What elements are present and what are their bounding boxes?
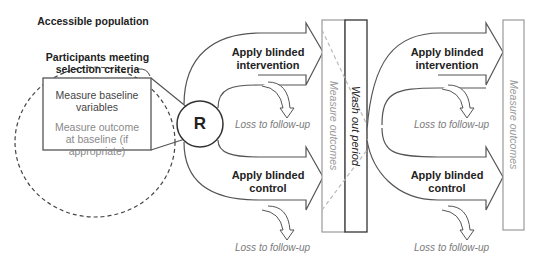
baseline-variables-label: Measure baseline variables — [52, 89, 142, 113]
period1-intervention-loss-arrow — [262, 82, 294, 118]
period1-intervention-label: Apply blinded intervention — [228, 46, 308, 71]
period1-intervention-loss-label: Loss to follow-up — [235, 119, 310, 131]
baseline-outcome-label: Measure outcome at baseline (if appropri… — [52, 121, 142, 157]
period1-control-loss-label: Loss to follow-up — [235, 242, 310, 254]
accessible-population-label: Accessible population — [28, 15, 158, 27]
period1-measure-label: Measure outcomes — [322, 20, 345, 232]
period1-control-loss-arrow — [262, 206, 294, 240]
randomization-label: R — [188, 114, 212, 134]
period2-intervention-loss-arrow — [442, 85, 474, 118]
period2-measure-label: Measure outcomes — [503, 20, 524, 230]
participants-label: Participants meeting selection criteria — [45, 51, 150, 75]
washout-label: Wash out period — [345, 20, 367, 232]
period2-intervention-loss-label: Loss to follow-up — [414, 119, 489, 131]
period2-intervention-arrow — [367, 23, 503, 130]
period2-control-loss-label: Loss to follow-up — [414, 242, 489, 254]
period1-control-label: Apply blinded control — [228, 169, 308, 194]
period2-control-loss-arrow — [442, 206, 474, 240]
period2-intervention-label: Apply blinded intervention — [407, 46, 487, 71]
period2-control-label: Apply blinded control — [407, 169, 487, 194]
